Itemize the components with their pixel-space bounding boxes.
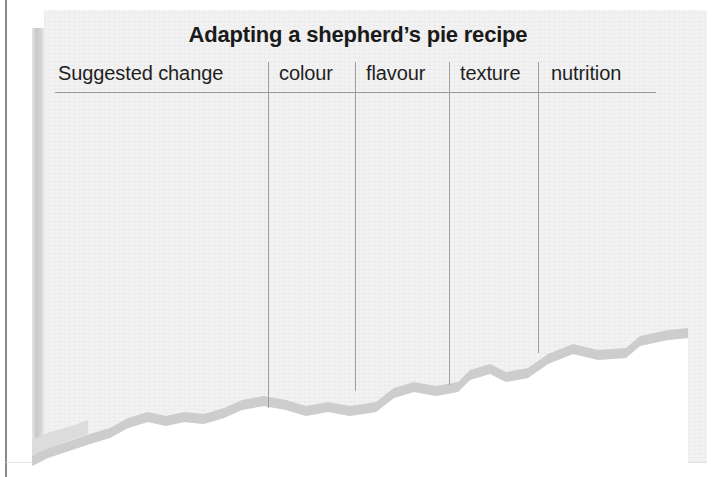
table-column-divider-2 <box>355 62 356 391</box>
table-column-header-suggested-change: Suggested change <box>58 62 223 85</box>
table-column-header-texture: texture <box>460 62 520 85</box>
table-column-divider-1 <box>268 62 269 408</box>
table-column-header-flavour: flavour <box>366 62 425 85</box>
page-spine-shadow <box>32 28 44 465</box>
scanned-page: Adapting a shepherd’s pie recipe Suggest… <box>0 0 713 477</box>
page-title: Adapting a shepherd’s pie recipe <box>44 22 672 48</box>
scan-left-border <box>5 0 7 477</box>
table-column-header-nutrition: nutrition <box>551 62 621 85</box>
table-column-divider-4 <box>538 62 539 353</box>
table-column-divider-3 <box>449 62 450 385</box>
scan-bottom-border <box>6 462 707 463</box>
table-column-header-colour: colour <box>279 62 333 85</box>
